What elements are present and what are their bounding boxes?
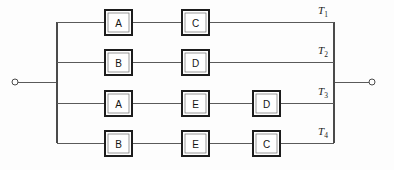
path-label-T1: T1 <box>318 4 328 19</box>
block-T3-1[interactable]: A <box>105 91 132 116</box>
block-diagram-svg: A C T1 B D T2 <box>0 0 394 170</box>
block-label: D <box>192 58 199 69</box>
block-T4-3[interactable]: C <box>253 131 280 156</box>
block-T4-1[interactable]: B <box>105 131 132 156</box>
path-label-subscript: 3 <box>324 91 328 100</box>
block-label: A <box>115 18 122 29</box>
block-label: B <box>115 58 122 69</box>
left-terminal-icon <box>12 79 18 85</box>
path-label-T2: T2 <box>318 44 328 59</box>
block-T3-3[interactable]: D <box>253 91 280 116</box>
path-row-T4: B E C T4 <box>57 125 334 156</box>
path-label-subscript: 2 <box>324 50 328 59</box>
block-T2-1[interactable]: B <box>105 50 132 75</box>
block-T3-2[interactable]: E <box>182 91 209 116</box>
path-row-T3: A E D T3 <box>57 85 334 116</box>
block-T1-1[interactable]: A <box>105 10 132 35</box>
block-T1-2[interactable]: C <box>182 10 209 35</box>
block-label: C <box>263 139 270 150</box>
path-label-subscript: 4 <box>324 131 328 140</box>
block-label: C <box>192 18 199 29</box>
path-label-subscript: 1 <box>324 10 328 19</box>
block-diagram-canvas: A C T1 B D T2 <box>0 0 394 170</box>
path-label-T4: T4 <box>318 125 328 140</box>
block-label: B <box>115 139 122 150</box>
block-T4-2[interactable]: E <box>182 131 209 156</box>
block-label: E <box>192 139 199 150</box>
block-label: D <box>263 99 270 110</box>
right-terminal-icon <box>369 79 375 85</box>
block-label: A <box>115 99 122 110</box>
path-row-T2: B D T2 <box>57 44 334 75</box>
path-row-T1: A C T1 <box>57 4 334 35</box>
block-label: E <box>192 99 199 110</box>
path-label-T3: T3 <box>318 85 328 100</box>
block-T2-2[interactable]: D <box>182 50 209 75</box>
